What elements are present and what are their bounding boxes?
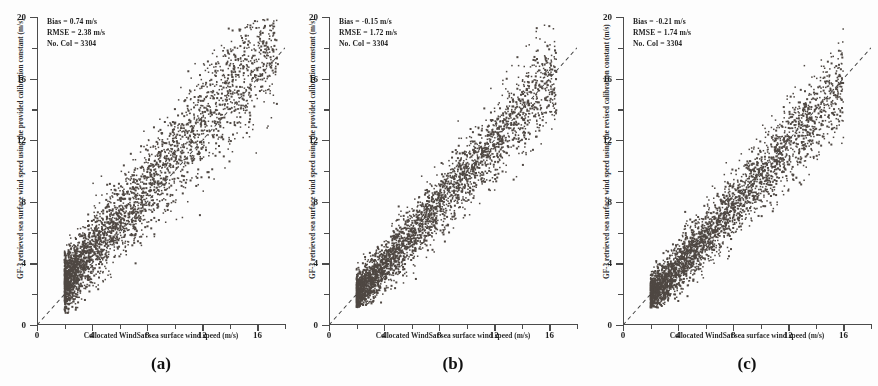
x-tick-minor xyxy=(577,324,578,329)
y-tick-minor xyxy=(32,109,37,110)
y-tick-label: 4 xyxy=(608,258,613,268)
scatter-canvas-c xyxy=(623,17,871,325)
x-axis-line-c xyxy=(623,324,871,325)
x-tick-minor xyxy=(65,324,66,329)
y-tick-minor xyxy=(32,48,37,49)
y-tick-minor xyxy=(32,171,37,172)
y-tick-major: 20 xyxy=(322,17,329,18)
panel-label-c: (c) xyxy=(623,354,871,374)
y-tick-minor xyxy=(618,109,623,110)
y-tick-major: 12 xyxy=(322,140,329,141)
y-tick-label: 0 xyxy=(314,320,319,330)
y-tick-minor xyxy=(618,294,623,295)
y-axis-label-b: GF-3 retrieved sea surface wind speed us… xyxy=(309,29,317,279)
y-tick-label: 16 xyxy=(603,74,612,84)
count-text-b: No. Col = 3304 xyxy=(339,38,397,49)
y-tick-label: 20 xyxy=(17,12,26,22)
y-tick-major: 16 xyxy=(322,79,329,80)
y-tick-major: 4 xyxy=(322,263,329,264)
count-text-a: No. Col = 3304 xyxy=(47,38,105,49)
x-axis-label-a: Collocated WindSat sea surface wind spee… xyxy=(37,331,285,340)
y-tick-major: 8 xyxy=(322,202,329,203)
y-tick-major: 16 xyxy=(616,79,623,80)
y-tick-label: 12 xyxy=(603,135,612,145)
y-tick-major: 0 xyxy=(30,325,37,326)
y-tick-minor xyxy=(324,171,329,172)
y-tick-major: 4 xyxy=(30,263,37,264)
y-tick-minor xyxy=(324,48,329,49)
y-tick-minor xyxy=(32,294,37,295)
y-tick-label: 16 xyxy=(17,74,26,84)
rmse-text-a: RMSE = 2.38 m/s xyxy=(47,27,105,38)
y-tick-major: 16 xyxy=(30,79,37,80)
x-axis-label-b: Collocated WindSat sea surface wind spee… xyxy=(329,331,577,340)
y-tick-major: 8 xyxy=(30,202,37,203)
y-tick-minor xyxy=(324,109,329,110)
rmse-text-c: RMSE = 1.74 m/s xyxy=(633,27,691,38)
y-axis-label-a: GF-3 retrieved sea surface wind speed us… xyxy=(17,29,25,279)
y-tick-major: 4 xyxy=(616,263,623,264)
bias-text-c: Bias = -0.21 m/s xyxy=(633,16,691,27)
y-tick-major: 0 xyxy=(322,325,329,326)
x-tick-minor xyxy=(816,324,817,329)
y-tick-label: 20 xyxy=(603,12,612,22)
y-tick-minor xyxy=(618,233,623,234)
panel-label-b: (b) xyxy=(329,354,577,374)
stats-block-b: Bias = -0.15 m/s RMSE = 1.72 m/s No. Col… xyxy=(339,16,397,49)
y-tick-label: 4 xyxy=(22,258,27,268)
y-tick-label: 4 xyxy=(314,258,319,268)
bias-text-b: Bias = -0.15 m/s xyxy=(339,16,397,27)
x-tick-minor xyxy=(412,324,413,329)
count-text-c: No. Col = 3304 xyxy=(633,38,691,49)
x-tick-minor xyxy=(120,324,121,329)
y-tick-minor xyxy=(324,233,329,234)
x-tick-minor xyxy=(357,324,358,329)
scatter-canvas-b xyxy=(329,17,577,325)
y-axis-line-a xyxy=(37,17,38,325)
x-tick-minor xyxy=(230,324,231,329)
x-axis-line-a xyxy=(37,324,285,325)
y-tick-label: 8 xyxy=(314,197,319,207)
x-tick-minor xyxy=(651,324,652,329)
y-tick-label: 0 xyxy=(22,320,27,330)
x-tick-minor xyxy=(522,324,523,329)
y-tick-minor xyxy=(32,233,37,234)
x-tick-minor xyxy=(761,324,762,329)
y-axis-label-c: GF-3 retrieved sea surface wind speed us… xyxy=(603,29,611,279)
panel-a: GF-3 retrieved sea surface wind speed us… xyxy=(0,0,292,386)
y-tick-minor xyxy=(324,294,329,295)
rmse-text-b: RMSE = 1.72 m/s xyxy=(339,27,397,38)
y-axis-line-c xyxy=(623,17,624,325)
x-tick-minor xyxy=(467,324,468,329)
y-tick-label: 20 xyxy=(309,12,318,22)
y-tick-label: 16 xyxy=(309,74,318,84)
plot-area-a: 0481216200481216 xyxy=(37,17,285,325)
y-tick-label: 12 xyxy=(309,135,318,145)
y-tick-label: 0 xyxy=(608,320,613,330)
x-axis-label-c: Collocated WindSat sea surface wind spee… xyxy=(623,331,871,340)
panel-c: GF-3 retrieved sea surface wind speed us… xyxy=(586,0,878,386)
scatter-canvas-a xyxy=(37,17,285,325)
x-tick-minor xyxy=(871,324,872,329)
y-tick-major: 12 xyxy=(616,140,623,141)
y-tick-label: 12 xyxy=(17,135,26,145)
x-axis-line-b xyxy=(329,324,577,325)
plot-area-c: 0481216200481216 xyxy=(623,17,871,325)
y-tick-minor xyxy=(618,48,623,49)
y-axis-line-b xyxy=(329,17,330,325)
y-tick-label: 8 xyxy=(608,197,613,207)
panel-b: GF-3 retrieved sea surface wind speed us… xyxy=(292,0,584,386)
stats-block-a: Bias = 0.74 m/s RMSE = 2.38 m/s No. Col … xyxy=(47,16,105,49)
x-tick-minor xyxy=(285,324,286,329)
plot-area-b: 0481216200481216 xyxy=(329,17,577,325)
scatter-figure: GF-3 retrieved sea surface wind speed us… xyxy=(0,0,878,386)
y-tick-major: 0 xyxy=(616,325,623,326)
bias-text-a: Bias = 0.74 m/s xyxy=(47,16,105,27)
y-tick-major: 12 xyxy=(30,140,37,141)
x-tick-minor xyxy=(175,324,176,329)
x-tick-minor xyxy=(706,324,707,329)
stats-block-c: Bias = -0.21 m/s RMSE = 1.74 m/s No. Col… xyxy=(633,16,691,49)
y-tick-minor xyxy=(618,171,623,172)
y-tick-major: 20 xyxy=(30,17,37,18)
y-tick-label: 8 xyxy=(22,197,27,207)
